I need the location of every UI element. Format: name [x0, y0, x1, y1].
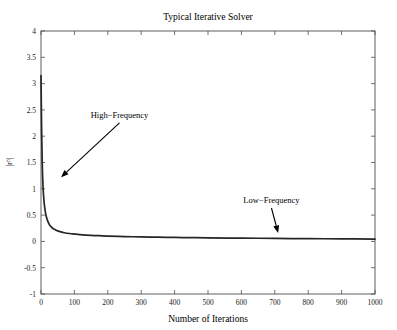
y-axis-title-tail: | — [5, 158, 14, 160]
x-tick-label: 600 — [236, 298, 248, 307]
annotation-arrow-low-frequency — [271, 208, 276, 226]
annotation-label-low-frequency: Low−Frequency — [243, 195, 300, 205]
x-tick-label: 200 — [102, 298, 114, 307]
y-tick-label: -0.5 — [24, 264, 36, 273]
x-tick-label: 700 — [269, 298, 281, 307]
y-tick-label: 3 — [32, 79, 36, 88]
x-axis-ticks: 01002003004005006007008009001000 — [39, 31, 383, 307]
y-tick-label: 1.5 — [27, 158, 37, 167]
annotations-group: High−FrequencyLow−Frequency — [61, 110, 300, 233]
y-tick-label: 2.5 — [27, 106, 37, 115]
y-tick-label: 0 — [32, 237, 36, 246]
axes-frame — [41, 31, 375, 294]
annotation-arrow-high-frequency — [67, 123, 120, 172]
x-tick-label: 0 — [39, 298, 43, 307]
y-tick-label: 4 — [32, 27, 36, 36]
y-tick-label: 1 — [32, 185, 36, 194]
chart-plot: Typical Iterative Solver 010020030040050… — [0, 0, 397, 330]
y-tick-label: -1 — [30, 290, 36, 299]
x-tick-label: 900 — [336, 298, 348, 307]
y-axis-title-group: |rn| — [5, 158, 14, 167]
y-axis-title: |rn| — [5, 158, 14, 167]
y-tick-label: 0.5 — [27, 211, 37, 220]
x-axis-title: Number of Iterations — [168, 314, 248, 324]
x-tick-label: 500 — [202, 298, 214, 307]
x-tick-label: 400 — [169, 298, 181, 307]
y-tick-label: 2 — [32, 132, 36, 141]
annotation-arrowhead-low-frequency — [273, 225, 279, 233]
x-axis-title-group: Number of Iterations — [168, 314, 248, 324]
y-tick-label: 3.5 — [27, 53, 37, 62]
residual-curve — [41, 76, 375, 239]
chart-title: Typical Iterative Solver — [163, 12, 253, 22]
data-series-group — [41, 76, 375, 239]
figure-canvas: Typical Iterative Solver 010020030040050… — [0, 0, 397, 330]
x-tick-label: 800 — [303, 298, 315, 307]
chart-title-group: Typical Iterative Solver — [163, 12, 253, 22]
annotation-label-high-frequency: High−Frequency — [91, 110, 149, 120]
x-tick-label: 300 — [136, 298, 148, 307]
x-tick-label: 100 — [69, 298, 81, 307]
x-tick-label: 1000 — [368, 298, 383, 307]
